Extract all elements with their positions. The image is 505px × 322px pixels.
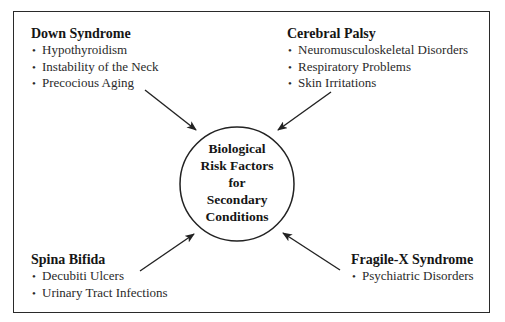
list-item: •Instability of the Neck xyxy=(31,59,159,76)
list-item: •Psychiatric Disorders xyxy=(351,268,474,285)
center-label-line: for xyxy=(179,174,295,191)
list-item-label: Neuromusculoskeletal Disorders xyxy=(298,42,468,57)
group-title: Down Syndrome xyxy=(31,26,159,42)
group-spina-bifida: Spina Bifida •Decubiti Ulcers •Urinary T… xyxy=(31,252,168,301)
bullet-icon: • xyxy=(32,75,36,92)
center-label-line: Conditions xyxy=(179,208,295,225)
list-item: •Skin Irritations xyxy=(287,75,468,92)
list-item: •Neuromusculoskeletal Disorders xyxy=(287,42,468,59)
group-list: •Hypothyroidism •Instability of the Neck… xyxy=(31,42,159,92)
arrow-fragile-x xyxy=(283,233,340,270)
list-item-label: Skin Irritations xyxy=(298,75,376,90)
group-title: Fragile-X Syndrome xyxy=(351,252,474,268)
center-label: Biological Risk Factors for Secondary Co… xyxy=(179,140,295,225)
list-item-label: Urinary Tract Infections xyxy=(42,285,168,300)
group-down-syndrome: Down Syndrome •Hypothyroidism •Instabili… xyxy=(31,26,159,92)
list-item-label: Instability of the Neck xyxy=(42,59,159,74)
group-list: •Neuromusculoskeletal Disorders •Respira… xyxy=(287,42,468,92)
list-item-label: Hypothyroidism xyxy=(42,42,127,57)
list-item: •Respiratory Problems xyxy=(287,59,468,76)
center-label-line: Risk Factors xyxy=(179,157,295,174)
list-item: •Urinary Tract Infections xyxy=(31,285,168,302)
list-item: •Decubiti Ulcers xyxy=(31,268,168,285)
group-list: •Psychiatric Disorders xyxy=(351,268,474,285)
list-item-label: Precocious Aging xyxy=(42,75,134,90)
group-cerebral-palsy: Cerebral Palsy •Neuromusculoskeletal Dis… xyxy=(287,26,468,92)
list-item: •Hypothyroidism xyxy=(31,42,159,59)
bullet-icon: • xyxy=(32,268,36,285)
bullet-icon: • xyxy=(352,268,356,285)
arrow-down-syndrome xyxy=(145,90,196,130)
bullet-icon: • xyxy=(32,42,36,59)
center-label-line: Secondary xyxy=(179,191,295,208)
group-title: Spina Bifida xyxy=(31,252,168,268)
arrow-cerebral-palsy xyxy=(278,92,331,130)
bullet-icon: • xyxy=(288,42,292,59)
list-item-label: Decubiti Ulcers xyxy=(42,268,124,283)
bullet-icon: • xyxy=(32,285,36,302)
list-item-label: Psychiatric Disorders xyxy=(362,268,474,283)
group-title: Cerebral Palsy xyxy=(287,26,468,42)
list-item: •Precocious Aging xyxy=(31,75,159,92)
bullet-icon: • xyxy=(288,59,292,76)
bullet-icon: • xyxy=(32,59,36,76)
group-list: •Decubiti Ulcers •Urinary Tract Infectio… xyxy=(31,268,168,301)
bullet-icon: • xyxy=(288,75,292,92)
group-fragile-x-syndrome: Fragile-X Syndrome •Psychiatric Disorder… xyxy=(351,252,474,285)
center-label-line: Biological xyxy=(179,140,295,157)
list-item-label: Respiratory Problems xyxy=(298,59,411,74)
